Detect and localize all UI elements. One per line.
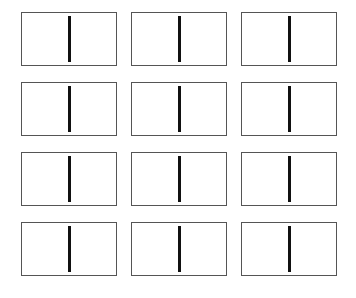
- rectangle-cell: [21, 82, 117, 136]
- vertical-divider-line: [68, 226, 71, 272]
- vertical-divider-line: [68, 156, 71, 202]
- vertical-divider-line: [68, 16, 71, 62]
- rectangle-cell: [241, 152, 337, 206]
- rectangle-cell: [21, 222, 117, 276]
- rectangle-cell: [131, 82, 227, 136]
- rectangle-cell: [131, 152, 227, 206]
- vertical-divider-line: [288, 226, 291, 272]
- vertical-divider-line: [178, 226, 181, 272]
- vertical-divider-line: [288, 86, 291, 132]
- vertical-divider-line: [178, 86, 181, 132]
- vertical-divider-line: [178, 16, 181, 62]
- rectangle-cell: [241, 222, 337, 276]
- vertical-divider-line: [68, 86, 71, 132]
- vertical-divider-line: [288, 16, 291, 62]
- vertical-divider-line: [178, 156, 181, 202]
- rectangle-cell: [131, 12, 227, 66]
- rectangle-cell: [21, 152, 117, 206]
- rectangle-cell: [241, 12, 337, 66]
- rectangle-cell: [131, 222, 227, 276]
- rectangle-cell: [241, 82, 337, 136]
- vertical-divider-line: [288, 156, 291, 202]
- rectangle-grid: [21, 12, 337, 276]
- rectangle-cell: [21, 12, 117, 66]
